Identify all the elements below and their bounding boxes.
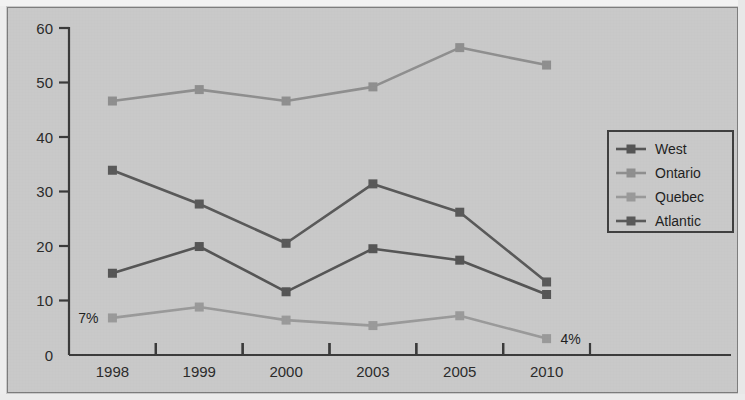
legend-marker-swatch: [627, 145, 636, 154]
y-tick-label: 0: [45, 347, 53, 364]
legend: WestOntarioQuebecAtlantic: [608, 131, 733, 232]
data-point-marker: [282, 239, 291, 248]
data-point-marker: [282, 287, 291, 296]
data-point-marker: [195, 242, 204, 251]
legend-marker-swatch: [627, 193, 636, 202]
legend-label-atlantic: Atlantic: [655, 213, 701, 229]
data-point-marker: [542, 290, 551, 299]
data-point-marker: [195, 85, 204, 94]
legend-label-quebec: Quebec: [655, 189, 704, 205]
series-line-quebec: [112, 307, 546, 339]
series-lines: [108, 43, 551, 343]
data-point-marker: [368, 321, 377, 330]
y-tick-label: 10: [36, 292, 53, 309]
legend-label-west: West: [655, 141, 687, 157]
line-chart: 0102030405060 199819992000200320052010 7…: [0, 0, 745, 400]
x-tick-label: 2000: [269, 363, 302, 380]
x-tick-label: 1998: [96, 363, 129, 380]
legend-marker-swatch: [627, 169, 636, 178]
x-tick-label: 2010: [530, 363, 563, 380]
x-tick-label: 2003: [356, 363, 389, 380]
figure-canvas: 0102030405060 199819992000200320052010 7…: [0, 0, 745, 400]
y-tick-label: 40: [36, 129, 53, 146]
x-axis: 199819992000200320052010: [69, 343, 731, 380]
data-point-marker: [195, 303, 204, 312]
annotation-4pct: 4%: [561, 331, 581, 347]
data-point-marker: [542, 61, 551, 70]
annotation-7pct: 7%: [78, 310, 98, 326]
series-line-ontario: [112, 48, 546, 101]
y-tick-label: 60: [36, 20, 53, 37]
y-tick-label: 50: [36, 74, 53, 91]
data-point-marker: [455, 208, 464, 217]
data-point-marker: [455, 43, 464, 52]
series-line-atlantic: [112, 170, 546, 282]
data-point-marker: [108, 313, 117, 322]
data-point-marker: [108, 269, 117, 278]
series-line-west: [112, 247, 546, 295]
data-point-marker: [455, 256, 464, 265]
legend-marker-swatch: [627, 217, 636, 226]
data-point-marker: [368, 82, 377, 91]
data-point-marker: [282, 316, 291, 325]
data-point-marker: [368, 179, 377, 188]
x-tick-label: 1999: [183, 363, 216, 380]
x-tick-label: 2005: [443, 363, 476, 380]
y-tick-label: 30: [36, 183, 53, 200]
data-point-marker: [282, 97, 291, 106]
data-point-marker: [542, 277, 551, 286]
data-point-marker: [455, 311, 464, 320]
y-axis: 0102030405060: [36, 20, 69, 364]
data-point-marker: [542, 334, 551, 343]
data-point-marker: [195, 200, 204, 209]
data-point-marker: [368, 244, 377, 253]
data-point-marker: [108, 97, 117, 106]
data-point-marker: [108, 166, 117, 175]
legend-label-ontario: Ontario: [655, 165, 701, 181]
y-tick-label: 20: [36, 238, 53, 255]
